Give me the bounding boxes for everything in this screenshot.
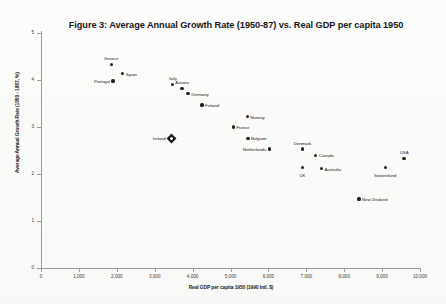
x-axis-tick-label: 10,000 xyxy=(400,274,440,279)
scatter-point-label: Portugal xyxy=(94,78,110,83)
scatter-point-label: Austria xyxy=(175,80,188,85)
x-axis-tick xyxy=(79,268,80,272)
scatter-point xyxy=(111,79,114,82)
scatter-point xyxy=(268,147,271,150)
x-axis-tick-label: 6,000 xyxy=(248,274,288,279)
x-axis-tick-label: 5,000 xyxy=(211,274,251,279)
y-axis-tick xyxy=(37,127,41,128)
scatter-point xyxy=(200,103,203,106)
scatter-point-label: New Zealand xyxy=(362,196,387,201)
scatter-point-label: UK xyxy=(300,173,306,178)
scatter-point xyxy=(121,72,124,75)
y-axis-tick-label: 4 xyxy=(18,77,34,82)
y-axis-tick xyxy=(37,80,41,81)
x-axis-tick xyxy=(420,268,421,272)
x-axis-tick xyxy=(268,268,269,272)
scatter-point xyxy=(246,115,249,118)
scatter-point-label: USA xyxy=(400,150,409,155)
y-axis-title: Average Annual Growth Rate (1950 - 1987,… xyxy=(15,43,20,203)
y-axis-tick xyxy=(37,174,41,175)
figure-scatter-chart: Figure 3: Average Annual Growth Rate (19… xyxy=(0,0,446,304)
scatter-point xyxy=(167,133,177,143)
y-axis-tick-label: 3 xyxy=(18,124,34,129)
scatter-point-label: Australia xyxy=(324,166,341,171)
scatter-point-label: Norway xyxy=(250,114,265,119)
x-axis-tick xyxy=(117,268,118,272)
scatter-point-label: France xyxy=(236,125,249,130)
x-axis-tick-label: 9,000 xyxy=(362,274,402,279)
y-axis-tick-label: 5 xyxy=(18,30,34,35)
x-axis-tick xyxy=(306,268,307,272)
x-axis-tick xyxy=(155,268,156,272)
scatter-point-label: Denmark xyxy=(294,141,311,146)
y-axis-tick xyxy=(37,33,41,34)
scatter-point xyxy=(402,157,405,160)
scatter-point xyxy=(186,92,189,95)
x-axis-tick xyxy=(344,268,345,272)
scatter-point xyxy=(384,166,387,169)
scatter-point-label: Switzerland xyxy=(374,173,396,178)
x-axis-tick xyxy=(382,268,383,272)
x-axis-tick-label: 3,000 xyxy=(135,274,175,279)
scatter-point xyxy=(171,83,174,86)
scatter-point-label: Greece xyxy=(104,56,118,61)
scatter-point xyxy=(301,166,304,169)
scatter-point-label: Netherlands xyxy=(243,147,266,152)
y-axis-tick-label: 1 xyxy=(18,218,34,223)
x-axis-tick-label: 7,000 xyxy=(286,274,326,279)
scatter-point xyxy=(314,154,317,157)
x-axis-tick-label: 8,000 xyxy=(324,274,364,279)
scatter-point-label: Canada xyxy=(319,153,334,158)
scatter-point-label: Germany xyxy=(191,91,209,96)
x-axis-tick xyxy=(41,268,42,272)
x-axis-tick-label: 0 xyxy=(21,274,61,279)
x-axis-tick xyxy=(193,268,194,272)
scatter-point xyxy=(180,87,183,90)
scatter-point xyxy=(320,167,323,170)
scatter-point-label: Ireland xyxy=(153,136,166,141)
x-axis-title: Real GDP per capita 1950 (1990 Intl. $) xyxy=(131,285,331,290)
scatter-point xyxy=(110,63,113,66)
x-axis-tick xyxy=(231,268,232,272)
x-axis-tick-label: 2,000 xyxy=(97,274,137,279)
y-axis-tick-label: 0 xyxy=(18,265,34,270)
page-title: Figure 3: Average Annual Growth Rate (19… xyxy=(56,20,416,31)
scatter-point xyxy=(232,125,235,128)
scatter-point-label: Spain xyxy=(126,71,137,76)
scatter-point xyxy=(301,147,304,150)
scatter-point xyxy=(246,137,249,140)
x-axis-tick-label: 1,000 xyxy=(59,274,99,279)
scatter-point-label: Finland xyxy=(205,102,219,107)
x-axis-tick-label: 4,000 xyxy=(173,274,213,279)
y-axis-tick-label: 2 xyxy=(18,171,34,176)
y-axis-tick xyxy=(37,221,41,222)
y-axis-line xyxy=(41,31,42,270)
scatter-point xyxy=(357,197,360,200)
scatter-point-label: Belgium xyxy=(251,136,267,141)
